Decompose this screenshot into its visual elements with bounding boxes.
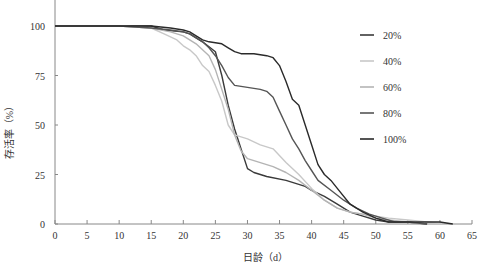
axes: 051015202530354045505560650255075100日龄（d… [3, 0, 477, 263]
y-axis-title: 存活率（%） [3, 101, 15, 159]
legend-label: 40% [383, 56, 401, 67]
legend-label: 100% [383, 134, 406, 145]
legend-label: 60% [383, 82, 401, 93]
x-tick-label: 10 [114, 230, 124, 241]
x-tick-label: 30 [242, 230, 252, 241]
y-tick-label: 25 [35, 170, 45, 181]
survival-rate-chart: 051015202530354045505560650255075100日龄（d… [0, 0, 485, 268]
x-axis-title: 日龄（d） [243, 251, 288, 263]
legend: 20%40%60%80%100% [360, 30, 406, 145]
x-tick-label: 25 [210, 230, 220, 241]
series-line-60pct [55, 26, 421, 224]
x-tick-label: 20 [178, 230, 188, 241]
x-tick-label: 40 [307, 230, 317, 241]
x-tick-label: 15 [146, 230, 156, 241]
series-line-20pct [55, 26, 427, 224]
legend-label: 80% [383, 108, 401, 119]
series-line-80pct [55, 26, 427, 224]
x-tick-label: 45 [339, 230, 349, 241]
y-tick-label: 0 [40, 219, 45, 230]
y-tick-label: 50 [35, 120, 45, 131]
y-tick-label: 75 [35, 71, 45, 82]
legend-label: 20% [383, 30, 401, 41]
x-tick-label: 60 [435, 230, 445, 241]
x-tick-label: 50 [371, 230, 381, 241]
x-tick-label: 5 [85, 230, 90, 241]
y-tick-label: 100 [30, 21, 45, 32]
x-tick-label: 0 [53, 230, 58, 241]
x-tick-label: 55 [403, 230, 413, 241]
x-tick-label: 65 [467, 230, 477, 241]
x-tick-label: 35 [275, 230, 285, 241]
